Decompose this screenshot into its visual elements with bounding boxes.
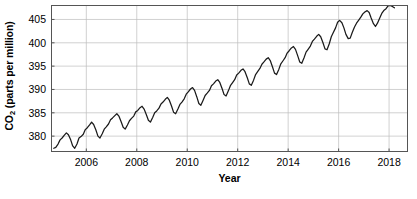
x-tick-label: 2006 — [75, 156, 98, 168]
x-tick-label: 2010 — [176, 156, 199, 168]
plot-area — [51, 5, 408, 152]
y-axis-label-suffix: (parts per million) — [3, 21, 15, 111]
x-tick-label: 2018 — [377, 156, 400, 168]
y-axis-label: CO2 (parts per million) — [0, 0, 20, 152]
y-tick-label: 395 — [28, 61, 46, 72]
plot-svg — [51, 5, 408, 152]
y-tick-label: 400 — [28, 38, 46, 49]
y-tick-label: 385 — [28, 108, 46, 119]
x-tick-label: 2016 — [327, 156, 350, 168]
y-axis-label-subscript: 2 — [8, 111, 17, 115]
x-axis-label: Year — [51, 172, 408, 184]
x-tick-label: 2012 — [226, 156, 249, 168]
y-tick-label: 390 — [28, 84, 46, 95]
y-axis-tick-labels: 380385390395400405 — [18, 0, 46, 199]
x-tick-label: 2014 — [276, 156, 299, 168]
y-axis-label-prefix: CO — [3, 115, 15, 131]
y-tick-label: 380 — [28, 131, 46, 142]
x-tick-label: 2008 — [125, 156, 148, 168]
y-tick-label: 405 — [28, 14, 46, 25]
co2-line-chart-figure: CO2 (parts per million) 3803853903954004… — [0, 0, 417, 199]
data-line-co2 — [54, 5, 395, 148]
